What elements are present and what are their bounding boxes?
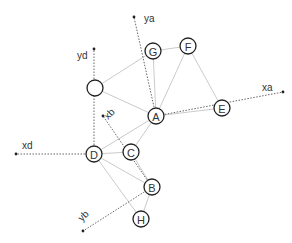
edge-D-B [94,154,152,187]
axis-label-yd: yd [77,50,88,61]
axis-yd-arrowhead-icon [93,48,96,51]
node-label: C [127,147,135,159]
axis-xa-arrowhead-icon [282,91,285,94]
graph-diagram: yaxaydxdxbyb GFAEDCBH [0,0,292,243]
node-label: F [185,41,192,53]
node-label: B [148,182,155,194]
axis-ya [134,17,156,116]
node-H: H [133,211,149,227]
node-label: H [137,214,145,226]
axis-ya-arrowhead-icon [133,16,136,19]
axis-label-yb: yb [76,208,92,224]
edge-F-A [156,46,188,116]
edge-A-E [156,108,222,116]
node-label: A [152,111,160,123]
node-label: E [218,103,225,115]
node-E: E [214,100,230,116]
node-D: D [86,146,102,162]
nodes-layer: GFAEDCBH [86,38,230,227]
node-label: G [149,46,158,58]
axis-yb-arrowhead-icon [82,230,85,233]
node-F: F [180,38,196,54]
node-label: D [90,149,98,161]
edge-F-E [188,46,222,108]
edge-D-H [94,154,141,219]
axis-label-ya: ya [144,13,155,24]
axis-label-xa: xa [262,82,273,93]
axis-label-xb: xb [102,106,118,122]
node-C: C [123,144,139,160]
edge-unlabeled-G [95,51,153,88]
node-B: B [144,179,160,195]
node-unlabeled [87,80,103,96]
axis-label-xd: xd [22,140,33,151]
node-circle [87,80,103,96]
node-A: A [148,108,164,124]
node-G: G [145,43,161,59]
axis-xd-arrowhead-icon [15,153,18,156]
